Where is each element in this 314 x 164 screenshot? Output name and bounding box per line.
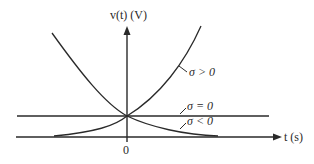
leader-sigma-negative [180, 123, 186, 129]
origin-label: 0 [123, 143, 129, 157]
leader-sigma-positive [179, 66, 187, 72]
leader-sigma-zero [180, 108, 186, 114]
exponential-signals-diagram: v(t) (V) t (s) 0 σ > 0 σ = 0 σ < 0 [0, 0, 314, 164]
voltage-axis-arrow-icon [124, 26, 131, 35]
label-sigma-negative: σ < 0 [187, 114, 213, 128]
time-axis-arrow-icon [273, 134, 282, 141]
y-axis-label: v(t) (V) [110, 8, 147, 22]
curve-sigma-positive [52, 33, 127, 116]
x-axis-label: t (s) [284, 130, 303, 144]
label-sigma-zero: σ = 0 [187, 99, 213, 113]
label-sigma-positive: σ > 0 [189, 65, 215, 79]
